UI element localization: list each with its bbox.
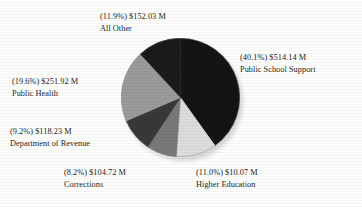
slice-label-public-health-value: (19.6%) $251.92 M <box>12 76 78 88</box>
pie-chart <box>121 38 240 157</box>
slice-label-public-health-name: Public Health <box>12 88 78 100</box>
slice-label-higher-education: (11.0%) $10.07 M Higher Education <box>196 167 258 190</box>
slice-label-higher-education-value: (11.0%) $10.07 M <box>196 167 258 179</box>
slice-label-department-of-revenue-value: (9.2%) $118.23 M <box>10 126 90 138</box>
slice-label-all-other-name: All Other <box>100 23 166 35</box>
slice-label-public-school-support-value: (40.1%) $514.14 M <box>240 52 316 64</box>
pie-chart-figure: (11.9%) $152.03 M All Other (40.1%) $514… <box>0 0 362 207</box>
slice-label-department-of-revenue-name: Department of Revenue <box>10 138 90 150</box>
slice-label-corrections: (8.2%) $104.72 M Corrections <box>64 167 126 190</box>
slice-label-corrections-value: (8.2%) $104.72 M <box>64 167 126 179</box>
slice-label-all-other-value: (11.9%) $152.03 M <box>100 11 166 23</box>
slice-label-higher-education-name: Higher Education <box>196 179 258 191</box>
pie-slices <box>121 38 240 157</box>
slice-label-all-other: (11.9%) $152.03 M All Other <box>100 11 166 34</box>
slice-label-public-school-support-name: Public School Support <box>240 64 316 76</box>
slice-label-department-of-revenue: (9.2%) $118.23 M Department of Revenue <box>10 126 90 149</box>
slice-label-public-health: (19.6%) $251.92 M Public Health <box>12 76 78 99</box>
slice-label-corrections-name: Corrections <box>64 179 126 191</box>
slice-label-public-school-support: (40.1%) $514.14 M Public School Support <box>240 52 316 75</box>
